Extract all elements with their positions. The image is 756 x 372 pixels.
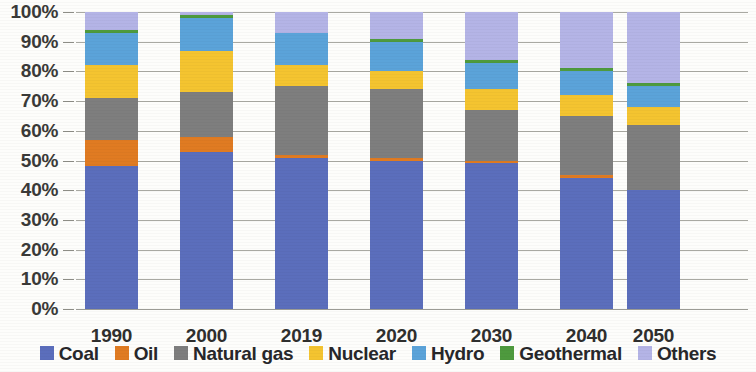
bar-segment-2050-geothermal[interactable] bbox=[627, 83, 680, 86]
legend-label: Coal bbox=[59, 344, 99, 363]
bar-segment-2030-geothermal[interactable] bbox=[465, 60, 518, 63]
y-tick-mark bbox=[63, 131, 74, 132]
bar-segment-2019-natural-gas[interactable] bbox=[275, 86, 328, 154]
y-tick-mark bbox=[63, 12, 74, 13]
bar-segment-1990-natural-gas[interactable] bbox=[85, 98, 138, 140]
y-axis-label-0%: 0% bbox=[31, 299, 58, 318]
bar-segment-2000-natural-gas[interactable] bbox=[180, 92, 233, 137]
bar-segment-2050-natural-gas[interactable] bbox=[627, 125, 680, 190]
bar-segment-2030-natural-gas[interactable] bbox=[465, 110, 518, 160]
bar-2000[interactable] bbox=[180, 12, 233, 309]
y-axis-label-50%: 50% bbox=[21, 151, 58, 170]
legend-label: Oil bbox=[134, 344, 158, 363]
y-axis-label-80%: 80% bbox=[21, 61, 58, 80]
bar-2050[interactable] bbox=[627, 12, 680, 309]
legend-swatch-icon bbox=[174, 346, 188, 360]
bar-segment-2030-coal[interactable] bbox=[465, 163, 518, 309]
y-tick-mark bbox=[63, 71, 74, 72]
legend-item-nuclear[interactable]: Nuclear bbox=[309, 344, 396, 363]
bar-segment-2000-coal[interactable] bbox=[180, 152, 233, 309]
bar-segment-1990-hydro[interactable] bbox=[85, 33, 138, 66]
bar-2040[interactable] bbox=[560, 12, 613, 309]
bar-segment-2020-hydro[interactable] bbox=[370, 42, 423, 72]
bar-2030[interactable] bbox=[465, 12, 518, 309]
y-tick-mark bbox=[63, 161, 74, 162]
bar-segment-1990-geothermal[interactable] bbox=[85, 30, 138, 33]
y-tick-mark bbox=[63, 101, 74, 102]
y-tick-mark bbox=[63, 220, 74, 221]
bar-segment-2000-geothermal[interactable] bbox=[180, 15, 233, 18]
bar-segment-2000-hydro[interactable] bbox=[180, 18, 233, 51]
plot-area: 0%10%20%30%40%50%60%70%80%90%100%1990200… bbox=[76, 12, 748, 309]
bar-1990[interactable] bbox=[85, 12, 138, 309]
bar-segment-2019-nuclear[interactable] bbox=[275, 65, 328, 86]
bar-segment-2020-nuclear[interactable] bbox=[370, 71, 423, 89]
bar-segment-2040-natural-gas[interactable] bbox=[560, 116, 613, 175]
legend-label: Natural gas bbox=[193, 344, 293, 363]
bar-segment-2020-geothermal[interactable] bbox=[370, 39, 423, 42]
bar-segment-2020-natural-gas[interactable] bbox=[370, 89, 423, 157]
gridline-0% bbox=[76, 309, 748, 310]
bar-segment-2000-others[interactable] bbox=[180, 12, 233, 15]
bar-segment-2030-hydro[interactable] bbox=[465, 63, 518, 90]
bar-segment-2040-oil[interactable] bbox=[560, 175, 613, 178]
bar-segment-2050-coal[interactable] bbox=[627, 190, 680, 309]
bar-segment-2020-others[interactable] bbox=[370, 12, 423, 39]
bar-segment-2019-others[interactable] bbox=[275, 12, 328, 33]
bar-segment-2050-hydro[interactable] bbox=[627, 86, 680, 107]
legend-label: Nuclear bbox=[328, 344, 396, 363]
legend-swatch-icon bbox=[115, 346, 129, 360]
bar-segment-2030-nuclear[interactable] bbox=[465, 89, 518, 110]
y-tick-mark bbox=[63, 279, 74, 280]
y-axis-label-90%: 90% bbox=[21, 32, 58, 51]
legend-item-geothermal[interactable]: Geothermal bbox=[500, 344, 622, 363]
bar-segment-2040-coal[interactable] bbox=[560, 178, 613, 309]
legend-label: Geothermal bbox=[519, 344, 622, 363]
y-axis-label-30%: 30% bbox=[21, 210, 58, 229]
legend-swatch-icon bbox=[40, 346, 54, 360]
bar-segment-2019-coal[interactable] bbox=[275, 158, 328, 309]
legend-label: Others bbox=[657, 344, 716, 363]
bar-segment-2030-others[interactable] bbox=[465, 12, 518, 60]
bar-segment-2019-hydro[interactable] bbox=[275, 33, 328, 66]
y-axis-label-10%: 10% bbox=[21, 269, 58, 288]
y-tick-mark bbox=[63, 190, 74, 191]
bar-segment-2040-others[interactable] bbox=[560, 12, 613, 68]
bar-segment-1990-nuclear[interactable] bbox=[85, 65, 138, 98]
bar-segment-1990-coal[interactable] bbox=[85, 166, 138, 309]
legend-swatch-icon bbox=[309, 346, 323, 360]
bar-segment-1990-oil[interactable] bbox=[85, 140, 138, 167]
y-axis-label-100%: 100% bbox=[11, 2, 58, 21]
legend-swatch-icon bbox=[500, 346, 514, 360]
bar-2019[interactable] bbox=[275, 12, 328, 309]
bar-2020[interactable] bbox=[370, 12, 423, 309]
y-tick-mark bbox=[63, 250, 74, 251]
stacked-bar-chart: 0%10%20%30%40%50%60%70%80%90%100%1990200… bbox=[0, 0, 756, 372]
bar-segment-1990-others[interactable] bbox=[85, 12, 138, 30]
y-axis-label-70%: 70% bbox=[21, 91, 58, 110]
chart-legend: CoalOilNatural gasNuclearHydroGeothermal… bbox=[0, 338, 756, 368]
legend-item-hydro[interactable]: Hydro bbox=[412, 344, 484, 363]
bar-segment-2020-coal[interactable] bbox=[370, 161, 423, 310]
bar-segment-2000-nuclear[interactable] bbox=[180, 51, 233, 93]
bar-segment-2040-hydro[interactable] bbox=[560, 71, 613, 95]
y-axis-label-20%: 20% bbox=[21, 240, 58, 259]
bar-segment-2000-oil[interactable] bbox=[180, 137, 233, 152]
legend-swatch-icon bbox=[412, 346, 426, 360]
bar-segment-2040-nuclear[interactable] bbox=[560, 95, 613, 116]
legend-item-natural-gas[interactable]: Natural gas bbox=[174, 344, 293, 363]
legend-item-oil[interactable]: Oil bbox=[115, 344, 158, 363]
bar-segment-2050-nuclear[interactable] bbox=[627, 107, 680, 125]
bar-segment-2020-oil[interactable] bbox=[370, 158, 423, 161]
bar-segment-2040-geothermal[interactable] bbox=[560, 68, 613, 71]
legend-item-others[interactable]: Others bbox=[638, 344, 716, 363]
y-axis-label-60%: 60% bbox=[21, 121, 58, 140]
bar-segment-2030-oil[interactable] bbox=[465, 161, 518, 164]
y-tick-mark bbox=[63, 309, 74, 310]
bar-segment-2050-others[interactable] bbox=[627, 12, 680, 83]
legend-item-coal[interactable]: Coal bbox=[40, 344, 99, 363]
bar-segment-2019-oil[interactable] bbox=[275, 155, 328, 158]
y-tick-mark bbox=[63, 42, 74, 43]
y-axis-label-40%: 40% bbox=[21, 180, 58, 199]
legend-label: Hydro bbox=[431, 344, 484, 363]
